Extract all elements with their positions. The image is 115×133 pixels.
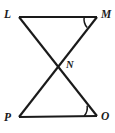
vertex-label-O: O xyxy=(101,111,109,123)
segment-PO xyxy=(19,116,97,117)
figure-canvas xyxy=(0,0,115,133)
angle-mark-M-icon xyxy=(84,17,87,28)
vertex-label-L: L xyxy=(4,9,11,21)
vertex-label-M: M xyxy=(101,9,111,21)
geometry-figure: L M N P O xyxy=(0,0,115,133)
vertex-label-P: P xyxy=(4,112,11,124)
vertex-label-N: N xyxy=(66,60,74,71)
angle-mark-O-icon xyxy=(84,106,87,117)
